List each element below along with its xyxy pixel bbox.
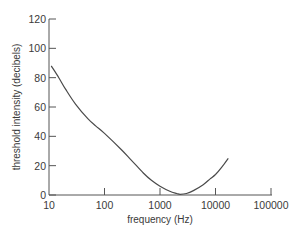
y-axis: 020406080100120 xyxy=(28,13,56,201)
x-tick-label: 10 xyxy=(43,199,55,211)
threshold-curve xyxy=(51,66,228,194)
y-tick-label: 40 xyxy=(34,130,46,142)
x-axis: 10100100010000100000 xyxy=(43,188,289,211)
x-tick-label: 10000 xyxy=(201,199,230,211)
x-tick-label: 100 xyxy=(96,199,114,211)
y-axis-label: threshold intensity (decibels) xyxy=(11,44,22,171)
x-tick-label: 1000 xyxy=(148,199,172,211)
y-tick-label: 20 xyxy=(34,160,46,172)
y-tick-label: 120 xyxy=(28,13,46,25)
threshold-chart: 020406080100120 10100100010000100000 fre… xyxy=(0,0,304,232)
y-tick-label: 100 xyxy=(28,42,46,54)
y-tick-label: 60 xyxy=(34,101,46,113)
y-tick-label: 80 xyxy=(34,72,46,84)
x-axis-label: frequency (Hz) xyxy=(127,214,193,225)
x-tick-label: 100000 xyxy=(253,199,288,211)
